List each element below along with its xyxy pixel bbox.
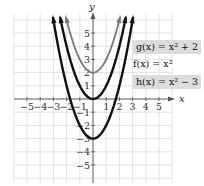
y-tick-label: −4 — [76, 146, 90, 157]
y-tick-label: 5 — [84, 28, 90, 39]
x-axis-arrow-icon — [168, 97, 175, 102]
legend-f: f(x) = x² — [130, 57, 175, 71]
y-tick-label: 3 — [84, 54, 90, 65]
y-tick-label: 1 — [84, 80, 90, 91]
x-axis-label: x — [179, 93, 185, 104]
curve-h-arrow-icon — [129, 15, 134, 23]
x-tick-label: −3 — [46, 101, 60, 112]
x-tick-label: −5 — [20, 101, 34, 112]
legend-h: h(x) = x² − 3 — [133, 75, 201, 89]
chart-canvas: xy −5−4−3−2−112345−5−4−3−2−112345 — [0, 0, 204, 186]
x-tick-label: 3 — [130, 101, 136, 112]
x-tick-label: 5 — [156, 101, 162, 112]
curve-f-arrow-icon — [122, 15, 127, 23]
curve-f-arrow-icon — [59, 15, 64, 23]
y-tick-label: −1 — [76, 107, 90, 118]
y-axis-label: y — [88, 1, 95, 12]
x-tick-label: 1 — [103, 101, 109, 112]
y-tick-label: −5 — [76, 160, 90, 171]
legend-g: g(x) = x² + 2 — [133, 40, 201, 54]
x-tick-label: −4 — [33, 101, 47, 112]
y-tick-label: 4 — [84, 41, 90, 52]
y-tick-label: −3 — [76, 133, 90, 144]
y-axis-arrow-icon — [91, 12, 96, 19]
x-tick-label: 4 — [143, 101, 149, 112]
curve-h-arrow-icon — [51, 15, 56, 23]
x-tick-label: 2 — [116, 101, 122, 112]
